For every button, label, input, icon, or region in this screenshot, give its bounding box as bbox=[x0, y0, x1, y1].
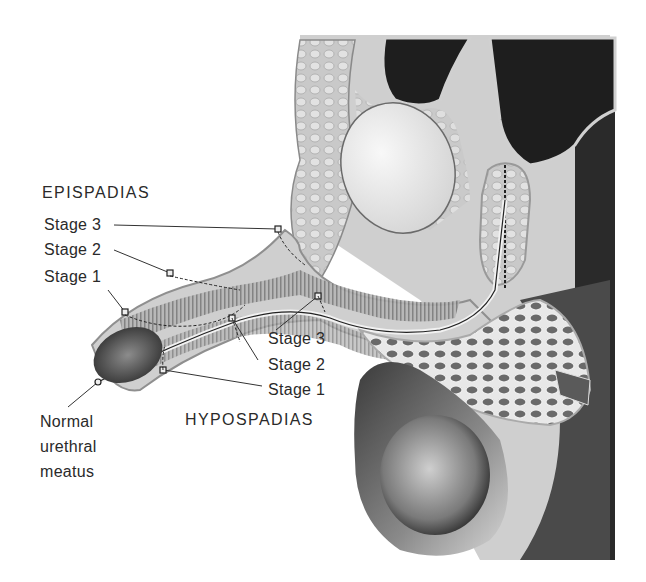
anatomy-illustration bbox=[0, 0, 646, 582]
anatomy-figure: EPISPADIAS Stage 3 Stage 2 Stage 1 Stage… bbox=[0, 0, 646, 582]
hypospadias-stage-3: Stage 3 bbox=[268, 330, 325, 348]
normal-meatus-line-2: urethral bbox=[40, 438, 97, 456]
epispadias-heading: EPISPADIAS bbox=[42, 184, 150, 202]
normal-meatus-line-3: meatus bbox=[40, 463, 94, 481]
testis bbox=[380, 415, 490, 535]
epispadias-stage-1: Stage 1 bbox=[44, 268, 101, 286]
normal-meatus-line-1: Normal bbox=[40, 413, 93, 431]
hypospadias-stage-1: Stage 1 bbox=[268, 381, 325, 399]
epispadias-stage-3: Stage 3 bbox=[44, 216, 101, 234]
epispadias-stage-2: Stage 2 bbox=[44, 241, 101, 259]
hypospadias-stage-2: Stage 2 bbox=[268, 356, 325, 374]
hypospadias-heading: HYPOSPADIAS bbox=[185, 411, 314, 429]
